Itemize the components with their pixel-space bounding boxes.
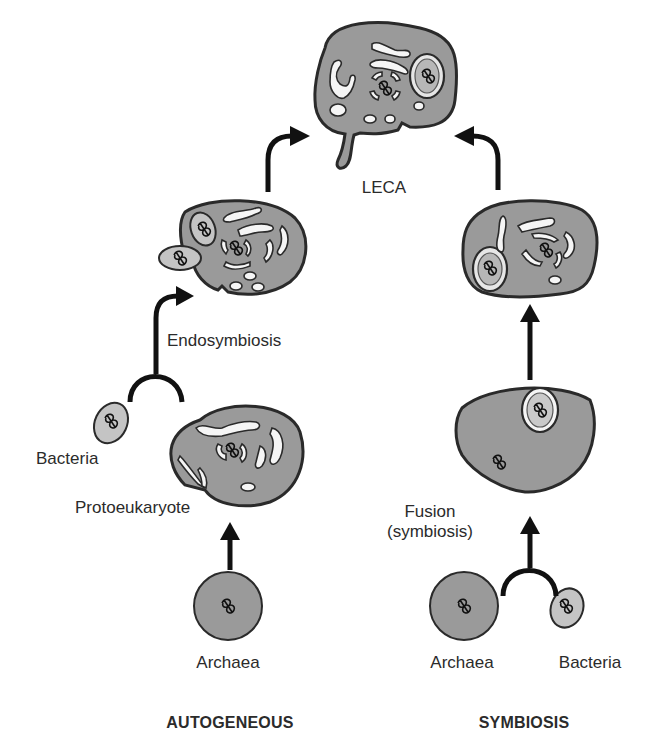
bacteria-label-symbiosis: Bacteria (559, 653, 621, 673)
eukaryogenesis-diagram (0, 0, 661, 750)
fusion-label: Fusion (symbiosis) (387, 502, 473, 542)
fused-cell-icon (456, 388, 594, 492)
mitochondriate-cell-icon (463, 201, 597, 297)
archaea-cell-icon (194, 572, 262, 640)
endosymbiosis-label: Endosymbiosis (167, 331, 281, 351)
protoeukaryote-cell-icon (171, 406, 303, 506)
arrow-icon (268, 126, 310, 192)
arrow-icon (220, 522, 240, 570)
bacteria-label-autogeneous: Bacteria (36, 449, 98, 469)
bacterium-icon (88, 397, 135, 449)
archaea-cell-icon (430, 572, 498, 640)
endosymbiosis-cell-icon (159, 201, 306, 295)
leca-cell-icon (315, 23, 457, 169)
arrow-icon (454, 126, 498, 190)
archaea-label-autogeneous: Archaea (196, 653, 259, 673)
arrow-icon (520, 304, 540, 380)
leca-label: LECA (362, 178, 406, 198)
bacterium-icon (545, 584, 589, 633)
autogeneous-heading: AUTOGENEOUS (166, 713, 293, 733)
protoeukaryote-label: Protoeukaryote (75, 498, 190, 518)
archaea-label-symbiosis: Archaea (430, 653, 493, 673)
symbiosis-heading: SYMBIOSIS (479, 713, 570, 733)
arrow-icon (503, 516, 556, 596)
